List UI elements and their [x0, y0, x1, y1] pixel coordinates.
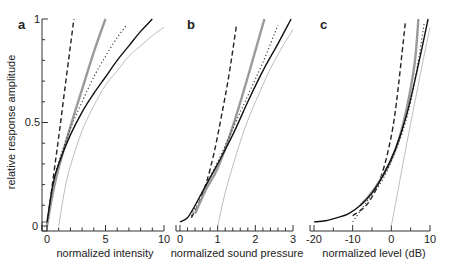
x-axis-label-a: normalized intensity	[56, 247, 154, 259]
x-tick-label: -10	[345, 233, 361, 245]
curves-panel-a	[47, 19, 164, 226]
panel-letter-b: b	[187, 17, 195, 32]
x-tick-label: 0	[44, 233, 50, 245]
figure: relative response amplitude 0 0.5 1 a b …	[0, 0, 449, 264]
axes-layer: 05100123-20-10010	[42, 19, 436, 245]
y-axis-label: relative response amplitude	[5, 55, 17, 190]
x-tick-label: 2	[252, 233, 258, 245]
curve-thin-gray	[391, 27, 430, 226]
x-axis-label-c: normalized level (dB)	[322, 247, 425, 259]
x-tick-label: 0	[177, 233, 183, 245]
curve-dotted	[353, 23, 425, 222]
x-tick-label: 5	[102, 233, 108, 245]
panel-letter-c: c	[320, 17, 327, 32]
curve-thick-gray	[360, 19, 418, 205]
x-tick-label: 1	[215, 233, 221, 245]
curve-thin-gray	[218, 29, 293, 226]
curves-panel-b	[180, 19, 293, 226]
x-tick-label: 10	[424, 233, 436, 245]
axes-panel-c: -20-10010	[306, 225, 436, 245]
ytick-label-0: 0	[32, 220, 38, 232]
x-tick-label: 3	[290, 233, 296, 245]
curves-layer	[47, 19, 430, 226]
x-tick-label: 10	[158, 233, 170, 245]
x-tick-label: 0	[388, 233, 394, 245]
x-tick-label: -20	[306, 233, 322, 245]
x-axis-label-b: normalized sound pressure	[171, 247, 304, 259]
curve-dashed	[353, 23, 406, 216]
curve-dotted	[47, 25, 127, 226]
ytick-label-1: 1	[34, 13, 40, 25]
axes-panel-b: 0123	[176, 225, 296, 245]
ytick-label-0-5: 0.5	[25, 116, 40, 128]
curve-dashed	[191, 25, 236, 218]
curves-panel-c	[314, 19, 430, 226]
panel-letter-a: a	[18, 17, 26, 32]
